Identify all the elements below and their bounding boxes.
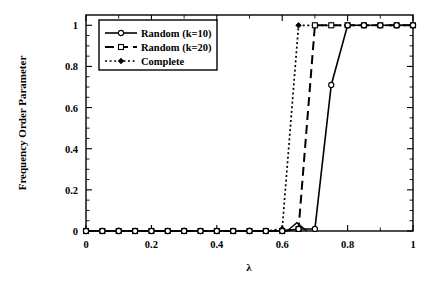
legend-marker-1 [118,30,123,35]
x-tick-label: 0.2 [145,239,158,250]
legend-label-1: Random (k=10) [141,28,212,40]
y-tick-label: 0.4 [65,144,79,155]
y-tick-label: 0.6 [65,103,78,114]
chart-legend: Random (k=10)Random (k=20)Complete [99,20,217,70]
frequency-order-parameter-chart: 00.20.40.60.81 00.20.40.60.81 λ Frequenc… [0,0,430,282]
x-tick-label: 0 [83,239,88,250]
x-tick-label: 1 [410,239,415,250]
x-axis-title: λ [246,261,252,273]
legend-label-3: Complete [141,56,184,67]
y-tick-label: 0.2 [65,185,78,196]
legend-marker-2 [119,45,124,50]
x-tick-label: 0.4 [210,239,224,250]
y-tick-label: 1 [73,20,78,31]
y-tick-label: 0 [73,226,78,237]
chart-figure: 00.20.40.60.81 00.20.40.60.81 λ Frequenc… [0,0,430,282]
legend-label-2: Random (k=20) [141,42,212,54]
x-tick-label: 0.6 [276,239,289,250]
x-tick-label: 0.8 [341,239,354,250]
y-axis-title: Frequency Order Parameter [16,56,28,191]
y-tick-label: 0.8 [65,61,78,72]
